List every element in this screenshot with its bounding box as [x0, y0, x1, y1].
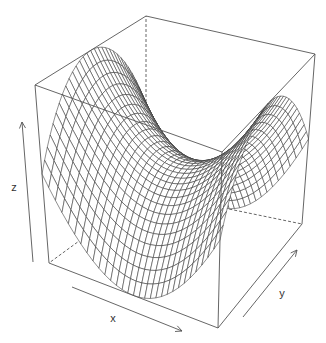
saddle-surface-plot: z x y [0, 0, 326, 343]
z-axis-arrow [22, 122, 33, 262]
x-axis-label: x [110, 312, 116, 324]
y-axis-arrow [243, 250, 297, 317]
box-edge [218, 224, 302, 328]
z-axis-label: z [11, 181, 17, 193]
surface-mesh [42, 47, 309, 298]
box-edge [146, 16, 315, 54]
y-axis-label: y [279, 287, 285, 299]
